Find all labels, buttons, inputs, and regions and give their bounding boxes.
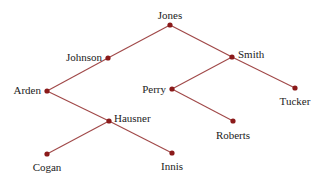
node-arden: [44, 88, 49, 93]
tree-diagram: JonesJohnsonSmithArdenPerryTuckerHausner…: [0, 0, 330, 177]
node-perry: [169, 86, 174, 91]
label-smith: Smith: [238, 48, 265, 60]
edge-smith-tucker: [232, 57, 295, 88]
edge-hausner-cogan: [47, 121, 109, 154]
label-roberts: Roberts: [216, 129, 250, 141]
label-innis: Innis: [161, 160, 183, 172]
label-johnson: Johnson: [66, 51, 103, 63]
edge-perry-roberts: [172, 89, 233, 121]
label-hausner: Hausner: [114, 112, 151, 124]
node-smith: [229, 54, 234, 59]
node-johnson: [105, 55, 110, 60]
label-arden: Arden: [14, 84, 42, 96]
edge-johnson-arden: [47, 58, 108, 91]
edge-smith-perry: [172, 57, 232, 89]
label-perry: Perry: [142, 83, 166, 95]
tree-nodes: [44, 22, 297, 156]
label-tucker: Tucker: [280, 95, 311, 107]
edge-jones-johnson: [108, 25, 170, 58]
edge-arden-hausner: [47, 91, 109, 121]
edge-hausner-innis: [109, 121, 172, 153]
node-innis: [169, 150, 174, 155]
node-cogan: [44, 151, 49, 156]
node-jones: [167, 22, 172, 27]
node-roberts: [230, 118, 235, 123]
edge-jones-smith: [170, 25, 232, 57]
label-jones: Jones: [158, 9, 182, 21]
node-tucker: [292, 85, 297, 90]
node-hausner: [106, 118, 111, 123]
label-cogan: Cogan: [33, 161, 62, 173]
